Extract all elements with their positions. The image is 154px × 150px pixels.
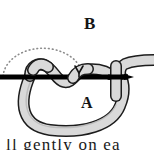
caption-clipped-strip: ll gently on ea: [0, 139, 154, 150]
knot-diagram-figure: B A ll gently on ea: [0, 0, 154, 150]
figure-label-a: A: [81, 95, 93, 111]
knot-diagram-svg: [0, 0, 154, 150]
caption-text: ll gently on ea: [6, 139, 121, 150]
figure-label-b: B: [84, 15, 95, 32]
